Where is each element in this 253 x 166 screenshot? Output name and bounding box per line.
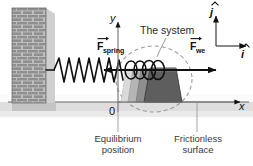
force-spring-subscript-text: spring: [103, 47, 124, 54]
equilibrium-position-caption: Equilibrium position: [75, 134, 161, 156]
physics-diagram: The system F spring F we y x 0 j: [0, 0, 253, 166]
frictionless-caption-line1: Frictionless: [174, 133, 222, 144]
unit-vector-axes: [216, 16, 246, 46]
unit-vector-j-label: j: [210, 6, 213, 19]
force-spring-label: F spring: [97, 40, 125, 52]
unit-vector-j-symbol: j: [210, 6, 213, 19]
unit-vector-i-symbol: i: [241, 48, 244, 61]
equilibrium-caption-line2: position: [102, 144, 135, 155]
unit-vector-j-text: j: [210, 6, 213, 18]
unit-vector-i-text: i: [241, 48, 244, 60]
frictionless-caption-line2: surface: [182, 144, 213, 155]
axis-label-x: x: [239, 100, 245, 113]
unit-vector-i-label: i: [241, 48, 244, 61]
force-we-label: F we: [190, 40, 206, 52]
brick-wall: [12, 8, 46, 103]
block-primary: [144, 68, 182, 102]
force-we-subscript-text: we: [196, 47, 205, 54]
origin-label: 0: [109, 105, 115, 118]
equilibrium-caption-line1: Equilibrium: [95, 133, 142, 144]
axis-label-y: y: [110, 12, 116, 25]
frictionless-surface-caption: Frictionless surface: [156, 134, 240, 156]
system-label: The system: [140, 24, 194, 36]
